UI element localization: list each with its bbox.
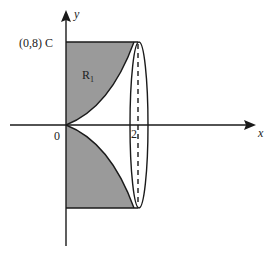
y-axis-label: y xyxy=(73,7,80,21)
x-axis-label: x xyxy=(257,126,264,140)
origin-label: 0 xyxy=(54,129,60,143)
solid-of-revolution-diagram: y x 0 2 (0,8) C R1 xyxy=(0,0,270,259)
region-r1-upper xyxy=(66,42,134,125)
x-tick-label-2: 2 xyxy=(131,127,137,141)
region-lower-reflection xyxy=(66,125,134,208)
point-c-label: (0,8) C xyxy=(19,36,53,50)
